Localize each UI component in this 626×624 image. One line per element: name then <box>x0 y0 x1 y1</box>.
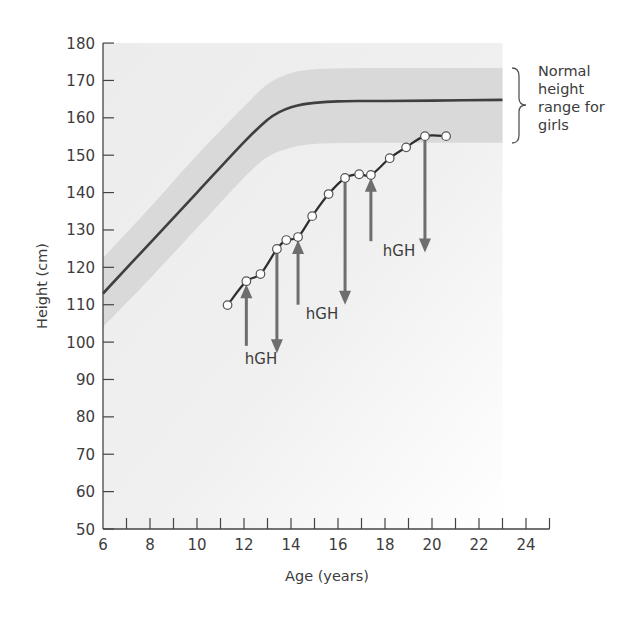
x-tick-label: 12 <box>234 536 253 554</box>
legend-line-1: Normal <box>538 62 618 80</box>
data-point-marker <box>341 174 350 183</box>
x-tick-label: 20 <box>422 536 441 554</box>
hgh-label-3: hGH <box>383 242 415 260</box>
data-point-marker <box>385 154 394 163</box>
x-tick-label: 18 <box>375 536 394 554</box>
y-tick-label: 180 <box>66 35 95 53</box>
x-tick-label: 10 <box>187 536 206 554</box>
y-tick-label: 150 <box>66 147 95 165</box>
y-tick-label: 130 <box>66 221 95 239</box>
x-tick-label: 6 <box>98 536 108 554</box>
x-axis-title: Age (years) <box>285 568 369 584</box>
y-tick-label: 170 <box>66 72 95 90</box>
x-tick-label: 16 <box>328 536 347 554</box>
legend-line-4: girls <box>538 116 618 134</box>
y-tick-label: 100 <box>66 334 95 352</box>
data-point-marker <box>367 171 376 180</box>
y-tick-label: 80 <box>76 408 95 426</box>
hgh-label-1: hGH <box>245 350 277 368</box>
growth-chart: 5060708090100110120130140150160170180681… <box>0 0 626 624</box>
x-tick-label: 24 <box>516 536 535 554</box>
data-point-marker <box>273 245 282 254</box>
y-tick-label: 120 <box>66 259 95 277</box>
data-point-marker <box>355 170 364 179</box>
hgh-label-2: hGH <box>306 305 338 323</box>
data-point-marker <box>402 143 411 152</box>
y-axis-title: Height (cm) <box>34 243 50 329</box>
data-point-marker <box>256 270 265 279</box>
legend-normal-range: Normal height range for girls <box>538 62 618 134</box>
data-point-marker <box>442 132 451 141</box>
legend-line-2: height <box>538 80 618 98</box>
data-point-marker <box>294 233 303 242</box>
x-tick-label: 8 <box>145 536 155 554</box>
legend-brace-icon <box>512 68 526 143</box>
data-point-marker <box>223 301 232 310</box>
y-tick-label: 70 <box>76 446 95 464</box>
data-point-marker <box>308 212 317 221</box>
y-tick-label: 110 <box>66 296 95 314</box>
y-tick-label: 60 <box>76 483 95 501</box>
y-tick-label: 90 <box>76 371 95 389</box>
data-point-marker <box>242 277 251 286</box>
data-point-marker <box>282 236 291 245</box>
x-tick-label: 14 <box>281 536 300 554</box>
data-point-marker <box>421 132 430 141</box>
data-point-marker <box>324 190 333 199</box>
y-tick-label: 50 <box>76 521 95 539</box>
x-tick-label: 22 <box>469 536 488 554</box>
y-tick-label: 140 <box>66 184 95 202</box>
y-tick-label: 160 <box>66 109 95 127</box>
legend-line-3: range for <box>538 98 618 116</box>
